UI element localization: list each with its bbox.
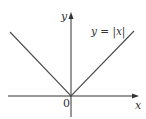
y-axis-arrow-icon	[69, 12, 74, 19]
y-axis-label: y	[61, 11, 67, 22]
origin-label: 0	[63, 98, 70, 109]
abs-value-curve	[10, 31, 134, 96]
abs-value-graph: y x 0 y = |x|	[0, 0, 146, 119]
x-axis-label: x	[135, 100, 141, 111]
x-axis-arrow-icon	[132, 94, 139, 99]
graph-svg	[0, 0, 146, 119]
function-label: y = |x|	[91, 26, 125, 37]
